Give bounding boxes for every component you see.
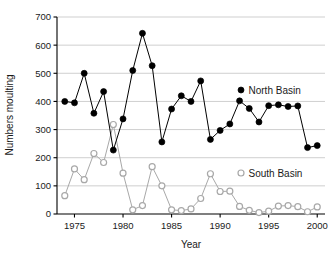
data-point: [285, 103, 291, 109]
data-point: [139, 30, 145, 36]
data-point: [246, 105, 252, 111]
data-point: [120, 116, 126, 122]
data-point: [110, 122, 116, 128]
data-point: [305, 209, 311, 215]
data-point: [159, 139, 165, 145]
data-point: [275, 102, 281, 108]
data-point: [81, 70, 87, 76]
data-point: [169, 207, 175, 213]
y-tick-label: 200: [35, 152, 51, 163]
data-point: [149, 164, 155, 170]
data-point: [237, 203, 243, 209]
data-point: [266, 208, 272, 214]
x-tick-label: 1990: [210, 220, 231, 231]
data-point: [81, 177, 87, 183]
y-axis: [54, 17, 58, 214]
data-point: [246, 207, 252, 213]
data-point: [188, 98, 194, 104]
data-point: [295, 204, 301, 210]
data-point: [110, 147, 116, 153]
data-point: [101, 89, 107, 95]
x-tick-label: 1995: [258, 220, 279, 231]
data-point: [159, 183, 165, 189]
y-axis-title: Numbers moulting: [4, 74, 15, 155]
data-point: [217, 188, 223, 194]
data-point: [139, 203, 145, 209]
data-point: [71, 166, 77, 172]
data-point: [295, 103, 301, 109]
data-point: [62, 193, 68, 199]
data-point: [130, 207, 136, 213]
data-point: [227, 121, 233, 127]
data-point: [178, 208, 184, 214]
x-tick-label: 1975: [64, 220, 85, 231]
y-tick-labels: 0100200300400500600700: [35, 11, 51, 219]
x-tick-label: 2000: [307, 220, 328, 231]
data-point: [207, 136, 213, 142]
data-point: [130, 67, 136, 73]
y-tick-label: 600: [35, 40, 51, 51]
data-point: [169, 106, 175, 112]
data-point: [314, 143, 320, 149]
data-point: [178, 93, 184, 99]
x-tick-label: 1985: [161, 220, 182, 231]
data-point: [227, 188, 233, 194]
line-chart: 0100200300400500600700 19751980198519901…: [0, 0, 335, 254]
data-point: [256, 119, 262, 125]
data-point: [188, 206, 194, 212]
data-point: [305, 145, 311, 151]
data-point: [71, 100, 77, 106]
data-point: [285, 203, 291, 209]
data-point: [101, 160, 107, 166]
x-tick-label: 1980: [112, 220, 133, 231]
data-point: [62, 98, 68, 104]
data-point: [256, 210, 262, 216]
legend: North BasinSouth Basin: [238, 85, 302, 179]
data-point: [266, 103, 272, 109]
y-tick-label: 100: [35, 180, 51, 191]
data-point: [198, 78, 204, 84]
legend-south-basin-marker-icon: [238, 170, 244, 176]
data-point: [314, 204, 320, 210]
legend-south-basin-label: South Basin: [249, 168, 303, 179]
y-tick-label: 400: [35, 96, 51, 107]
data-point: [91, 150, 97, 156]
data-point: [217, 127, 223, 133]
y-tick-label: 300: [35, 124, 51, 135]
legend-north-basin-marker-icon: [238, 87, 244, 93]
data-point: [149, 63, 155, 69]
x-axis-title: Year: [181, 239, 202, 250]
y-tick-label: 500: [35, 68, 51, 79]
data-point: [120, 170, 126, 176]
x-axis: [57, 214, 325, 218]
x-tick-labels: 197519801985199019952000: [64, 220, 328, 231]
data-point: [207, 171, 213, 177]
data-point: [275, 203, 281, 209]
data-point: [198, 196, 204, 202]
chart-container: 0100200300400500600700 19751980198519901…: [0, 0, 335, 254]
y-tick-label: 700: [35, 11, 51, 22]
data-point: [237, 98, 243, 104]
data-point: [91, 110, 97, 116]
legend-north-basin-label: North Basin: [249, 85, 301, 96]
y-tick-label: 0: [46, 208, 51, 219]
